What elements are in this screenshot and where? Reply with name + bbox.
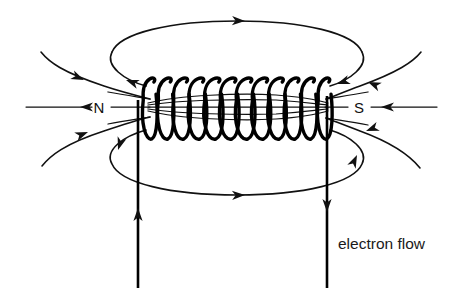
electron-flow-caption: electron flow [338, 235, 426, 252]
coil-turn [142, 78, 157, 139]
south-pole-label: S [354, 99, 364, 116]
arrow-upper-left [70, 71, 86, 85]
diagram-canvas: N S electron flow [0, 0, 461, 302]
field-line-upper-right [326, 52, 421, 99]
north-pole-label: N [94, 99, 105, 116]
field-line-upper-left [41, 52, 150, 99]
axis-field-line-right [325, 102, 437, 111]
field-line-lower-right [326, 118, 420, 168]
arrow-bottom-loop-right [347, 153, 361, 169]
solenoid-coil [142, 78, 332, 139]
lead-wire-left [133, 100, 142, 288]
field-line-lower-left [42, 117, 150, 166]
solenoid-field-diagram: N S electron flow [0, 0, 461, 302]
coil-turn [317, 78, 332, 139]
axis-field-line-left [26, 102, 150, 111]
